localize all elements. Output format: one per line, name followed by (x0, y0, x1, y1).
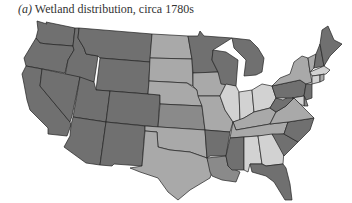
state-ri (320, 74, 324, 82)
state-me (320, 26, 342, 66)
state-nd (150, 34, 192, 59)
state-wy (96, 58, 150, 94)
state-ct (312, 75, 320, 84)
state-ms (226, 137, 244, 170)
us-wetland-map (0, 0, 352, 203)
state-ks (158, 104, 205, 130)
state-wa (36, 21, 75, 46)
state-nm (100, 122, 145, 166)
state-ny (272, 56, 312, 86)
state-fl (250, 164, 292, 200)
state-co (106, 91, 160, 127)
